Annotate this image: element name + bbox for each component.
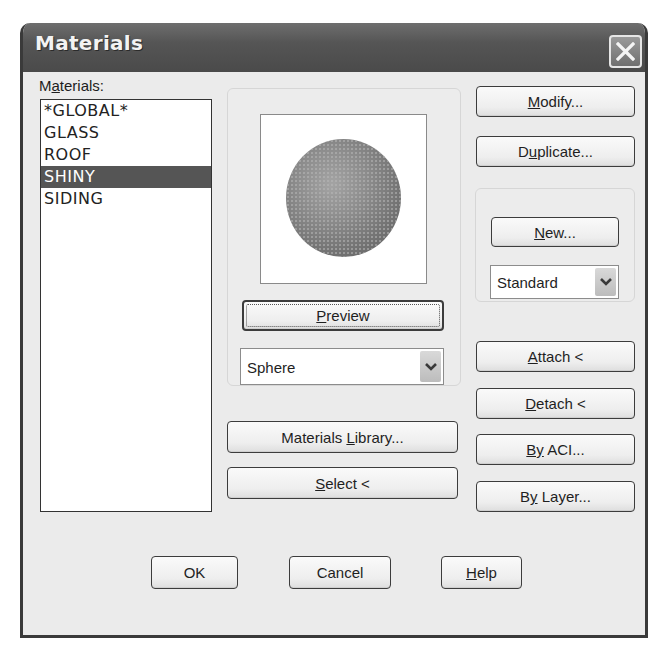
dropdown-arrow[interactable] bbox=[595, 268, 616, 296]
list-item-roof[interactable]: ROOF bbox=[41, 144, 211, 166]
dialog-title: Materials bbox=[35, 31, 143, 55]
duplicate-button[interactable]: Duplicate... bbox=[476, 136, 635, 167]
material-type-value: Standard bbox=[497, 274, 558, 291]
list-item-shiny[interactable]: SHINY bbox=[41, 166, 211, 188]
materials-dialog: Materials Materials: *GLOBAL* GLASS ROOF… bbox=[20, 23, 648, 638]
focus-ring bbox=[246, 304, 440, 327]
preview-shape-value: Sphere bbox=[247, 358, 295, 375]
list-item-global[interactable]: *GLOBAL* bbox=[41, 100, 211, 122]
close-x-icon bbox=[616, 42, 635, 61]
cancel-button[interactable]: Cancel bbox=[289, 556, 391, 589]
help-button[interactable]: Help bbox=[441, 556, 522, 589]
materials-list-label: Materials: bbox=[39, 77, 104, 94]
attach-button[interactable]: Attach < bbox=[476, 341, 635, 372]
dropdown-arrow[interactable] bbox=[420, 351, 441, 382]
preview-shape-select[interactable]: Sphere bbox=[240, 348, 444, 385]
detach-button[interactable]: Detach < bbox=[476, 388, 635, 419]
by-aci-button[interactable]: By ACI... bbox=[476, 434, 635, 465]
materials-listbox[interactable]: *GLOBAL* GLASS ROOF SHINY SIDING bbox=[40, 99, 212, 512]
select-button[interactable]: Select < bbox=[227, 467, 458, 499]
modify-button[interactable]: Modify... bbox=[476, 86, 635, 117]
title-bar[interactable]: Materials bbox=[23, 23, 645, 72]
material-type-select[interactable]: Standard bbox=[490, 265, 619, 299]
preview-image-frame bbox=[260, 114, 427, 284]
close-button[interactable] bbox=[609, 35, 642, 68]
by-layer-button[interactable]: By Layer... bbox=[476, 481, 635, 512]
chevron-down-icon bbox=[600, 278, 612, 286]
list-item-siding[interactable]: SIDING bbox=[41, 188, 211, 210]
new-button[interactable]: New... bbox=[491, 217, 619, 247]
chevron-down-icon bbox=[425, 363, 437, 371]
preview-button[interactable]: Preview bbox=[242, 300, 444, 331]
materials-library-button[interactable]: Materials Library... bbox=[227, 421, 458, 453]
sphere-preview-image bbox=[286, 139, 401, 257]
list-item-glass[interactable]: GLASS bbox=[41, 122, 211, 144]
ok-button[interactable]: OK bbox=[151, 556, 238, 589]
